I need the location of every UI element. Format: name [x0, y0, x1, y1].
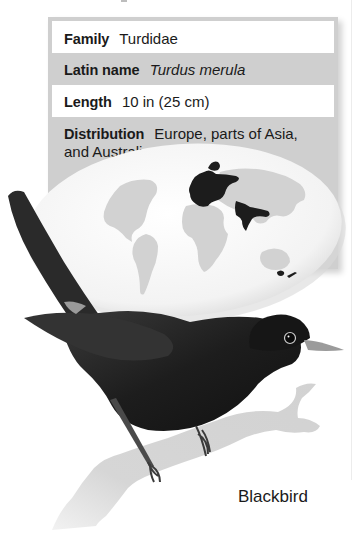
species-caption: Blackbird	[238, 487, 308, 507]
illustration-layer	[0, 0, 362, 547]
